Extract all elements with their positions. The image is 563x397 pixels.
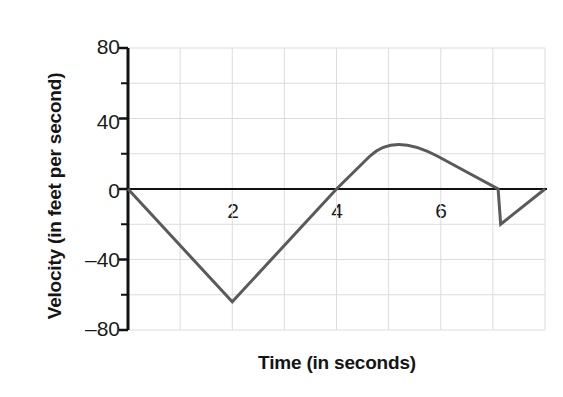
y-axis [119,48,128,330]
plot-area [0,0,563,397]
chart-container: Velocity (in feet per second) 80 40 0 ‒4… [0,0,563,397]
